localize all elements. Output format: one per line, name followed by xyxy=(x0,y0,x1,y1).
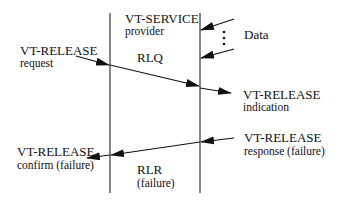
rlr-arrow xyxy=(111,142,200,155)
service-title: VT-SERVICE xyxy=(125,12,199,25)
data-arrow-bottom xyxy=(201,49,234,58)
rlr-label: RLR xyxy=(137,163,162,176)
rlr-sublabel: (failure) xyxy=(137,178,175,190)
ellipsis-dot xyxy=(223,37,226,40)
data-label: Data xyxy=(244,28,269,41)
confirm-title: VT-RELEASE xyxy=(17,145,95,158)
ellipsis-dot xyxy=(223,31,226,34)
request-subtitle: request xyxy=(20,58,53,70)
data-arrow-top xyxy=(201,19,234,30)
confirm-subtitle: confirm (failure) xyxy=(17,160,94,172)
indication-subtitle: indication xyxy=(243,102,289,114)
request-title: VT-RELEASE xyxy=(20,44,98,57)
response-title: VT-RELEASE xyxy=(244,131,322,144)
response-arrow xyxy=(201,138,234,142)
indication-arrow xyxy=(200,88,231,93)
rlq-arrow xyxy=(110,65,199,86)
service-subtitle: provider xyxy=(125,26,164,38)
ellipsis-dot xyxy=(223,43,226,46)
rlq-label: RLQ xyxy=(137,51,163,64)
indication-title: VT-RELEASE xyxy=(243,88,321,101)
response-subtitle: response (failure) xyxy=(244,146,325,158)
